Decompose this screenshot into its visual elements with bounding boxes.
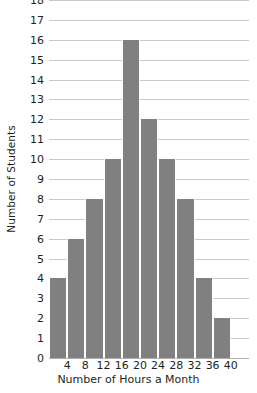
y-tick-label: 7 [37, 213, 44, 224]
bar [85, 199, 103, 358]
y-axis-tick-labels: 0123456789101112131415161718 [22, 0, 47, 358]
x-tick-label: 12 [97, 360, 111, 371]
bar-slot [67, 0, 85, 358]
x-tick-label: 36 [206, 360, 220, 371]
bar-slot [231, 0, 249, 358]
bar [67, 239, 85, 358]
bar-slot [213, 0, 231, 358]
x-axis-title: Number of Hours a Month [0, 373, 257, 386]
y-tick-label: 9 [37, 174, 44, 185]
x-tick-label: 4 [64, 360, 71, 371]
bar-slot [195, 0, 213, 358]
y-tick-label: 8 [37, 193, 44, 204]
bar-slot [158, 0, 176, 358]
bar-slot [104, 0, 122, 358]
bar-slot [176, 0, 194, 358]
y-tick-label: 11 [30, 134, 44, 145]
y-tick-label: 3 [37, 293, 44, 304]
y-tick-label: 5 [37, 253, 44, 264]
y-tick-label: 13 [30, 94, 44, 105]
x-tick-label: 8 [82, 360, 89, 371]
x-tick-label: 28 [169, 360, 183, 371]
bar [140, 119, 158, 358]
y-tick-label: 18 [30, 0, 44, 6]
bar [158, 159, 176, 358]
bar-slot [122, 0, 140, 358]
y-tick-label: 1 [37, 333, 44, 344]
bar-series [49, 0, 249, 358]
bar [49, 278, 67, 358]
y-tick-label: 17 [30, 14, 44, 25]
y-tick-label: 6 [37, 233, 44, 244]
y-tick-label: 4 [37, 273, 44, 284]
y-axis-title-text: Number of Students [5, 125, 17, 233]
plot-area [49, 0, 249, 358]
x-axis-title-text: Number of Hours a Month [57, 373, 199, 386]
x-tick-label: 32 [187, 360, 201, 371]
x-tick-label: 40 [224, 360, 238, 371]
x-tick-label: 16 [115, 360, 129, 371]
bar [213, 318, 231, 358]
bar [195, 278, 213, 358]
bar-slot [49, 0, 67, 358]
y-tick-label: 12 [30, 114, 44, 125]
bar [176, 199, 194, 358]
bar-slot [85, 0, 103, 358]
bar-slot [140, 0, 158, 358]
histogram-chart: Number of Students 012345678910111213141… [0, 0, 257, 393]
x-tick-label: 20 [133, 360, 147, 371]
y-tick-label: 14 [30, 74, 44, 85]
x-tick-label: 24 [151, 360, 165, 371]
bar [122, 40, 140, 358]
y-tick-label: 16 [30, 34, 44, 45]
y-tick-label: 0 [37, 353, 44, 364]
y-tick-label: 15 [30, 54, 44, 65]
y-axis-title: Number of Students [0, 0, 22, 358]
y-tick-label: 2 [37, 313, 44, 324]
y-tick-label: 10 [30, 154, 44, 165]
bar [104, 159, 122, 358]
